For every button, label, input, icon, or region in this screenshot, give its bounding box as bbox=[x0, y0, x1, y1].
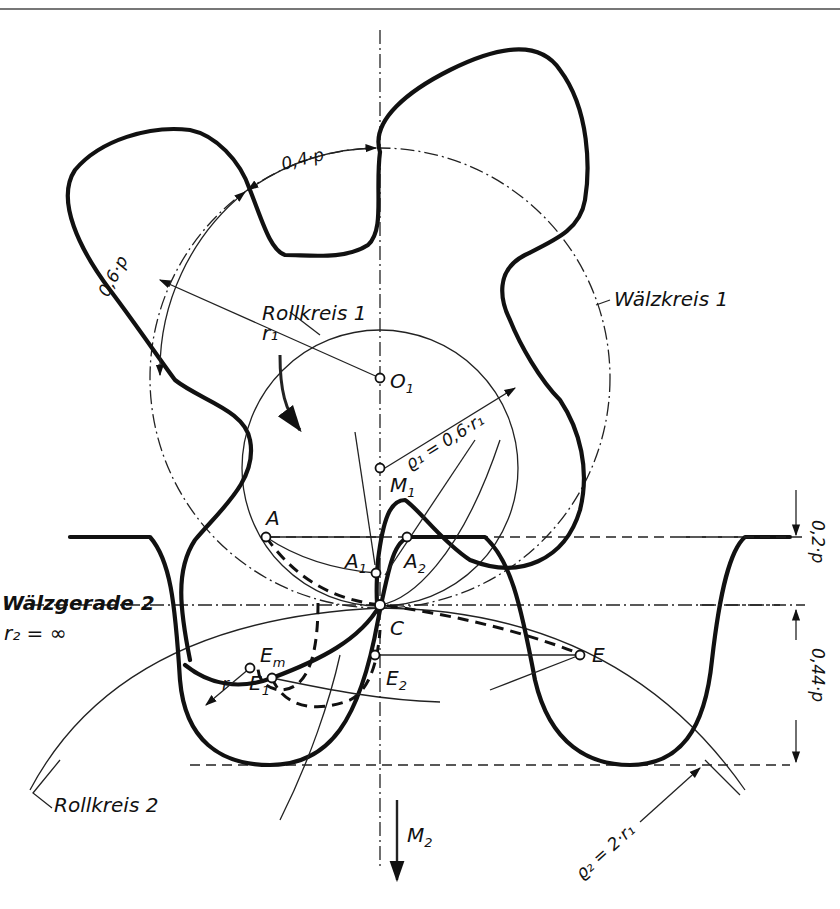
point-e bbox=[576, 651, 585, 660]
label-c: C bbox=[390, 616, 404, 640]
label-r: r bbox=[222, 674, 230, 694]
point-c bbox=[375, 600, 385, 610]
point-o1 bbox=[376, 374, 385, 383]
line-of-action-upper bbox=[266, 537, 580, 654]
label-o1: O1 bbox=[390, 369, 414, 396]
dim-label-head: 0,2·p bbox=[808, 520, 828, 563]
label-rollkreis-2: Rollkreis 2 bbox=[54, 793, 158, 817]
label-e1: E1 bbox=[249, 671, 270, 698]
tooth-flank-e1 bbox=[185, 605, 380, 684]
label-m2: M2 bbox=[407, 823, 433, 850]
label-waelzkreis-1: Wälzkreis 1 bbox=[614, 287, 728, 311]
point-e1 bbox=[268, 674, 277, 683]
point-a bbox=[262, 533, 271, 542]
rho2-leader bbox=[640, 768, 700, 822]
point-a2 bbox=[403, 533, 412, 542]
rotation-arrow bbox=[280, 355, 300, 430]
arc-dim-0-6p bbox=[160, 192, 245, 375]
point-m1 bbox=[376, 464, 385, 473]
point-e2 bbox=[371, 651, 380, 660]
label-e: E bbox=[592, 643, 605, 667]
rack-2-outline bbox=[70, 537, 790, 765]
label-em: Em bbox=[260, 643, 285, 670]
label-r2-infinity: r₂ = ∞ bbox=[4, 621, 66, 645]
label-a2: A2 bbox=[402, 549, 426, 576]
label-waelzgerade-2: Wälzgerade 2 bbox=[2, 591, 155, 615]
label-e2: E2 bbox=[386, 666, 407, 693]
waelzkreis1-leader bbox=[596, 300, 610, 305]
gear-diagram: Rollkreis 1 Wälzkreis 1 Wälzgerade 2 r₂ … bbox=[0, 0, 840, 909]
label-a1: A1 bbox=[343, 549, 367, 576]
dim-label-0-4p: 0,4·p bbox=[279, 144, 326, 174]
label-m1: M1 bbox=[390, 473, 416, 500]
hypocycloid-construction bbox=[380, 440, 500, 605]
label-a: A bbox=[264, 506, 280, 530]
dim-label-foot: 0,44·p bbox=[808, 648, 828, 702]
dim-label-rho2: ϱ₂ = 2·r₁ bbox=[571, 819, 638, 883]
point-a1 bbox=[372, 569, 381, 578]
label-r1: r₁ bbox=[262, 321, 278, 345]
normal-line-a1 bbox=[355, 432, 375, 565]
